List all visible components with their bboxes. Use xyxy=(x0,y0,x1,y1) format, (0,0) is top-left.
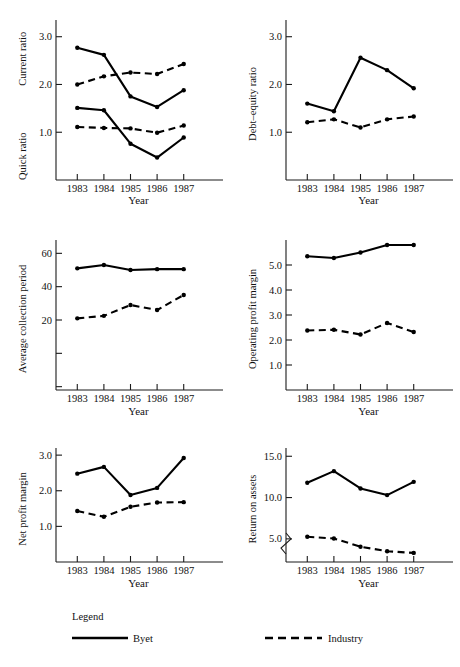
data-point-industry xyxy=(155,131,159,135)
data-point-byet xyxy=(305,254,309,258)
series-line-byet xyxy=(77,458,183,495)
data-point-byet xyxy=(75,46,79,50)
data-point-industry xyxy=(155,72,159,76)
x-tick-label: 1983 xyxy=(67,183,88,194)
legend-label-industry: Industry xyxy=(328,633,364,644)
y-tick-label: 3.0 xyxy=(39,31,52,42)
data-point-industry xyxy=(182,500,186,504)
data-point-industry xyxy=(358,332,362,336)
y-tick-label: 10.0 xyxy=(264,492,282,503)
data-point-industry xyxy=(102,126,106,130)
y-tick-label: 2.0 xyxy=(269,79,282,90)
x-tick-label: 1985 xyxy=(350,565,371,576)
panel-current-quick-ratio: 1.02.03.019831984198519861987YearCurrent… xyxy=(0,0,230,228)
y-tick-label: 2.0 xyxy=(269,335,282,346)
data-point-byet xyxy=(412,243,416,247)
y-tick-label: 2.0 xyxy=(39,485,52,496)
data-point-byet xyxy=(305,101,309,105)
data-point-byet xyxy=(385,493,389,497)
x-tick-label: 1984 xyxy=(93,183,115,194)
y-axis-title-lower: Quick ratio xyxy=(17,132,28,180)
data-point-industry xyxy=(332,117,336,121)
x-tick-label: 1983 xyxy=(297,565,318,576)
chart-operating-profit-margin: 1.02.03.04.05.019831984198519861987YearO… xyxy=(230,228,460,438)
data-point-byet xyxy=(155,267,159,271)
chart-return-on-assets: 5.010.015.019831984198519861987YearRetur… xyxy=(230,438,460,610)
data-point-byet xyxy=(412,480,416,484)
data-point-industry xyxy=(412,114,416,118)
data-point-industry xyxy=(128,303,132,307)
y-tick-label: 1.0 xyxy=(39,521,52,532)
y-tick-label: 20 xyxy=(42,315,53,326)
x-tick-label: 1987 xyxy=(173,393,194,404)
data-point-byet xyxy=(155,105,159,109)
chart-grid: 1.02.03.019831984198519861987YearCurrent… xyxy=(0,0,460,610)
data-point-byet xyxy=(332,256,336,260)
data-point-industry xyxy=(102,74,106,78)
data-point-industry xyxy=(155,308,159,312)
x-tick-label: 1984 xyxy=(93,565,115,576)
data-point-industry xyxy=(412,330,416,334)
data-point-byet xyxy=(155,486,159,490)
data-point-byet xyxy=(75,266,79,270)
data-point-byet xyxy=(75,471,79,475)
data-point-industry xyxy=(182,123,186,127)
data-point-byet xyxy=(385,68,389,72)
x-axis-title: Year xyxy=(128,577,149,589)
data-point-industry xyxy=(332,328,336,332)
y-axis-title: Operating profit margin xyxy=(247,268,258,369)
x-axis-title: Year xyxy=(128,405,149,417)
x-tick-label: 1986 xyxy=(147,565,168,576)
y-tick-label: 1.0 xyxy=(39,127,52,138)
data-point-industry xyxy=(75,82,79,86)
data-point-industry xyxy=(75,509,79,513)
data-point-byet xyxy=(128,493,132,497)
data-point-byet xyxy=(332,109,336,113)
x-tick-label: 1983 xyxy=(67,393,88,404)
data-point-industry xyxy=(75,125,79,129)
data-point-industry xyxy=(128,126,132,130)
data-point-byet xyxy=(305,480,309,484)
x-tick-label: 1986 xyxy=(377,183,398,194)
data-point-industry xyxy=(305,328,309,332)
y-tick-label: 3.0 xyxy=(269,31,282,42)
x-tick-label: 1984 xyxy=(323,565,345,576)
data-point-byet xyxy=(182,456,186,460)
panel-operating-profit-margin: 1.02.03.04.05.019831984198519861987YearO… xyxy=(230,228,460,438)
series-line-industry xyxy=(77,502,183,517)
data-point-byet xyxy=(412,86,416,90)
x-tick-label: 1985 xyxy=(350,393,371,404)
y-axis-title: Debt–equity ratio xyxy=(247,67,258,141)
x-tick-label: 1985 xyxy=(350,183,371,194)
y-axis-title: Return on assets xyxy=(247,475,258,544)
legend-caption: Legend xyxy=(72,611,104,622)
series-line-byet xyxy=(77,108,183,158)
data-point-industry xyxy=(358,545,362,549)
x-tick-label: 1983 xyxy=(297,393,318,404)
y-axis-title-upper: Current ratio xyxy=(17,32,28,86)
data-point-byet xyxy=(155,155,159,159)
chart-net-profit-margin: 1.02.03.019831984198519861987YearNet pro… xyxy=(0,438,230,610)
y-tick-label: 5.0 xyxy=(269,260,282,271)
data-point-byet xyxy=(102,263,106,267)
series-line-byet xyxy=(307,471,413,495)
y-tick-label: 2.0 xyxy=(39,79,52,90)
data-point-byet xyxy=(358,486,362,490)
data-point-industry xyxy=(75,316,79,320)
data-point-industry xyxy=(358,125,362,129)
x-tick-label: 1986 xyxy=(377,393,398,404)
x-tick-label: 1987 xyxy=(173,183,194,194)
chart-current-quick-ratio: 1.02.03.019831984198519861987YearCurrent… xyxy=(0,0,230,228)
data-point-byet xyxy=(385,243,389,247)
x-tick-label: 1985 xyxy=(120,393,141,404)
panel-return-on-assets: 5.010.015.019831984198519861987YearRetur… xyxy=(230,438,460,610)
data-point-byet xyxy=(75,106,79,110)
panel-net-profit-margin: 1.02.03.019831984198519861987YearNet pro… xyxy=(0,438,230,610)
x-tick-label: 1985 xyxy=(120,183,141,194)
x-axis-title: Year xyxy=(358,577,379,589)
data-point-industry xyxy=(332,536,336,540)
data-point-industry xyxy=(385,117,389,121)
x-tick-label: 1984 xyxy=(323,183,345,194)
y-axis-title: Net profit margin xyxy=(17,472,28,546)
x-tick-label: 1983 xyxy=(67,565,88,576)
